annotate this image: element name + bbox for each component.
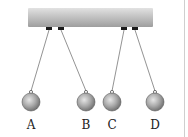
ball-a	[22, 93, 40, 111]
diagram: ABCD	[0, 0, 188, 137]
pendulum-d	[132, 27, 164, 111]
hook-clip	[121, 27, 127, 30]
ball-d	[146, 93, 164, 111]
string	[31, 30, 49, 91]
pendulum-a	[22, 27, 52, 111]
support-bar	[28, 8, 153, 27]
pendulum-c	[103, 27, 127, 111]
label-a: A	[23, 118, 39, 132]
label-c: C	[104, 118, 120, 132]
pendulum-b	[58, 27, 95, 111]
ball-c	[103, 93, 121, 111]
hook-clip	[46, 27, 52, 30]
label-d: D	[147, 118, 163, 132]
string	[135, 30, 155, 91]
label-b: B	[78, 118, 94, 132]
ball-b	[77, 93, 95, 111]
string	[112, 30, 124, 91]
string	[61, 30, 86, 91]
pendulum-diagram	[0, 0, 188, 137]
hook-clip	[58, 27, 64, 30]
right-border-line	[184, 0, 185, 137]
hook-clip	[132, 27, 138, 30]
pendulum-group	[22, 27, 164, 111]
